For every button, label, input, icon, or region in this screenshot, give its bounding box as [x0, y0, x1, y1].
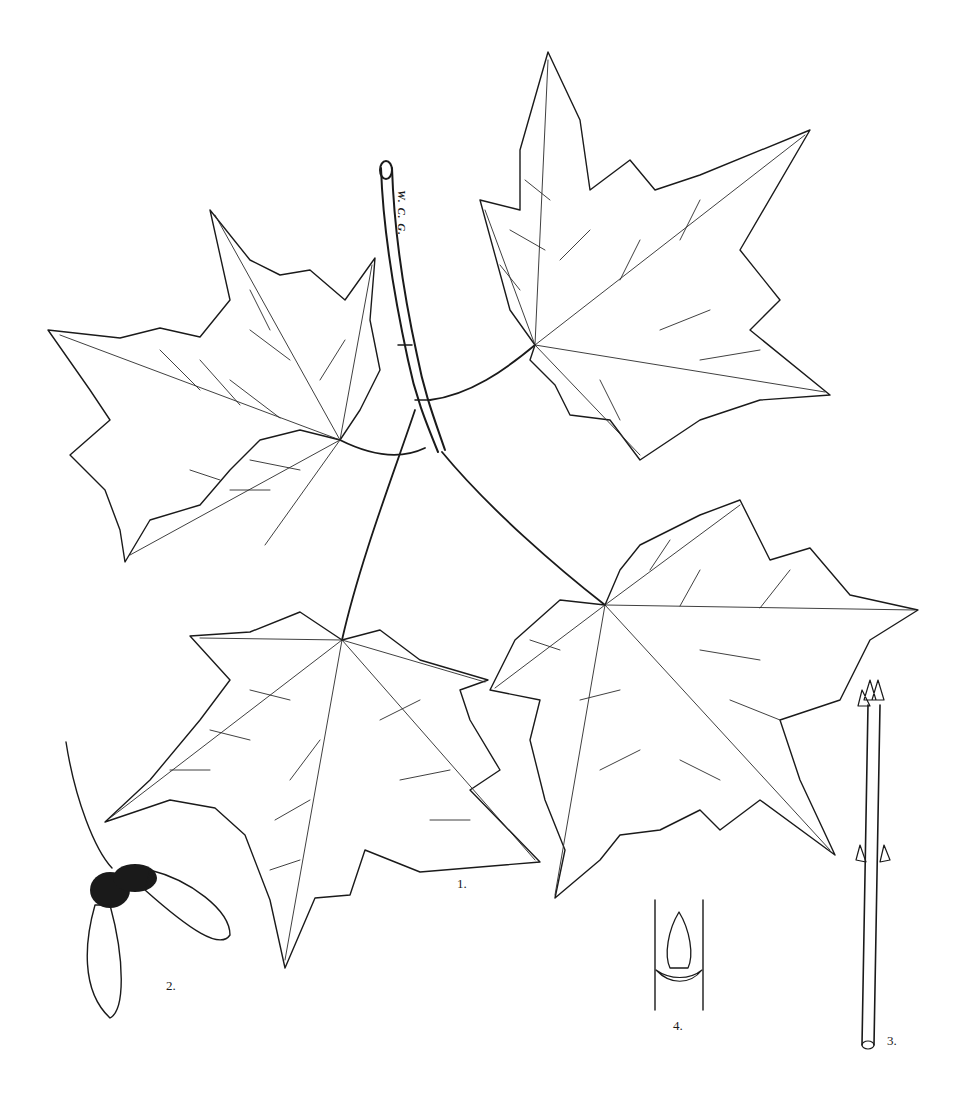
figure-label-1: 1. [457, 876, 467, 892]
bud-detail-figure [655, 900, 703, 1010]
artist-signature: W. C. G. [396, 190, 408, 236]
leaf-upper-right [480, 52, 830, 460]
samara-figure [66, 742, 230, 1018]
figure-label-4: 4. [673, 1018, 683, 1034]
winter-twig-figure [856, 680, 890, 1049]
leaf-lower-left [105, 612, 540, 968]
petioles [340, 345, 605, 640]
figure-label-3: 3. [887, 1033, 897, 1049]
botanical-plate [0, 0, 964, 1093]
figure-label-2: 2. [166, 978, 176, 994]
central-twig [380, 161, 445, 452]
leaf-lower-right [490, 500, 918, 898]
leaf-upper-left [48, 210, 380, 562]
